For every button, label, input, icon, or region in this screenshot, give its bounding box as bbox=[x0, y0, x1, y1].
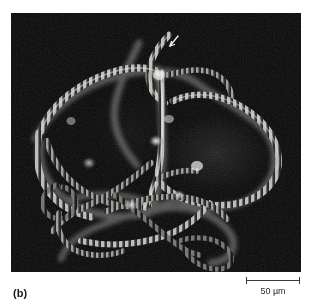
figure-panel-b: (b) 50 µm bbox=[0, 0, 316, 306]
scale-bar-line bbox=[246, 280, 300, 281]
micrograph-image bbox=[11, 13, 301, 272]
scale-bar-label: 50 µm bbox=[246, 286, 300, 297]
scale-bar: 50 µm bbox=[246, 277, 302, 301]
chromosome-spread-rendering bbox=[11, 13, 301, 272]
scale-bar-tick-right bbox=[299, 277, 300, 284]
scale-bar-tick-left bbox=[246, 277, 247, 284]
image-grain bbox=[11, 13, 301, 272]
panel-label: (b) bbox=[13, 286, 27, 300]
